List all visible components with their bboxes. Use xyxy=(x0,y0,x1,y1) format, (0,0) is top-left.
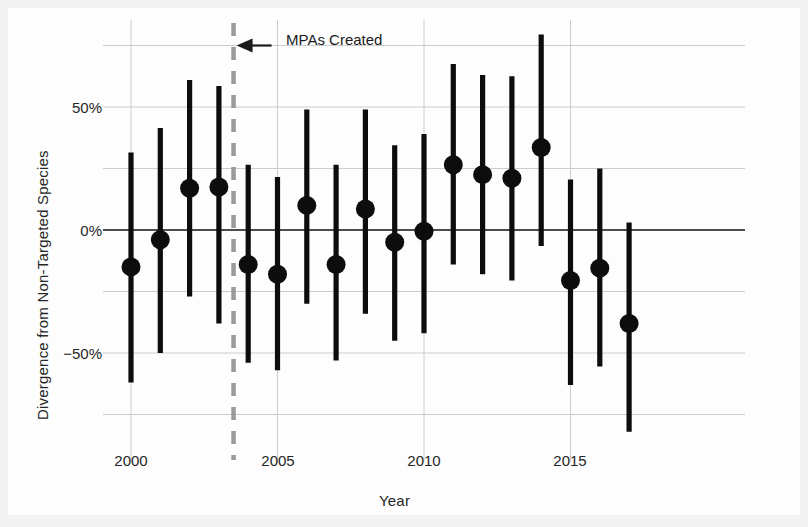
chart-figure: 50% 0% −50% 2000 2005 2010 2015 Divergen… xyxy=(0,0,808,527)
data-point-marker xyxy=(327,255,346,274)
data-point-marker xyxy=(268,265,287,284)
xtick-label-2010: 2010 xyxy=(394,452,454,469)
data-point-marker xyxy=(239,255,258,274)
mpas-created-label: MPAs Created xyxy=(286,31,382,48)
data-point-marker xyxy=(151,230,170,249)
data-point-marker xyxy=(590,259,609,278)
chart-plot-svg xyxy=(0,0,808,527)
data-point-marker xyxy=(561,271,580,290)
data-point-marker xyxy=(532,138,551,157)
errorbar-series-group xyxy=(122,34,639,431)
data-point-marker xyxy=(620,314,639,333)
arrow-head xyxy=(237,39,253,53)
xtick-label-2000: 2000 xyxy=(101,452,161,469)
y-axis-title: Divergence from Non-Targeted Species xyxy=(34,150,51,420)
xtick-label-2015: 2015 xyxy=(540,452,600,469)
data-point-marker xyxy=(444,155,463,174)
data-point-marker xyxy=(473,165,492,184)
data-point-marker xyxy=(297,196,316,215)
data-point-marker xyxy=(385,233,404,252)
data-point-marker xyxy=(356,200,375,219)
data-point-marker xyxy=(180,179,199,198)
mpas-arrow-icon xyxy=(237,39,272,53)
data-point-marker xyxy=(122,257,141,276)
data-point-marker xyxy=(415,222,434,241)
ytick-label-50: 50% xyxy=(38,99,102,116)
data-point-marker xyxy=(209,177,228,196)
data-point-marker xyxy=(502,169,521,188)
xtick-label-2005: 2005 xyxy=(248,452,308,469)
x-axis-title: Year xyxy=(379,492,410,509)
